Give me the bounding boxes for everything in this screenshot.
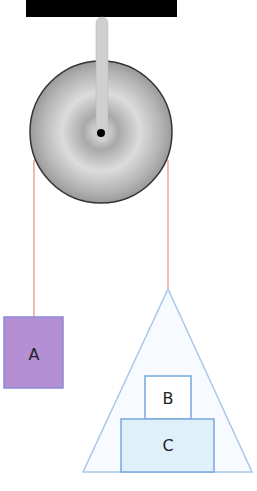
block-b-label: B — [163, 389, 174, 408]
block-a-label: A — [29, 345, 40, 364]
block-c-label: C — [162, 436, 173, 455]
pulley-axle — [97, 129, 105, 137]
pulley-rod — [96, 17, 108, 143]
ceiling-support — [26, 0, 177, 17]
pulley-diagram: A B C — [0, 0, 257, 491]
